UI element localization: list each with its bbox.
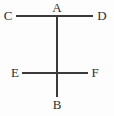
point-label-f: F (88, 66, 102, 79)
point-label-c: C (1, 9, 15, 22)
point-label-a: A (50, 1, 64, 14)
point-label-d: D (95, 9, 109, 22)
point-label-b: B (50, 98, 64, 111)
geometry-figure: A B C D E F (0, 0, 114, 116)
point-label-e: E (8, 66, 22, 79)
